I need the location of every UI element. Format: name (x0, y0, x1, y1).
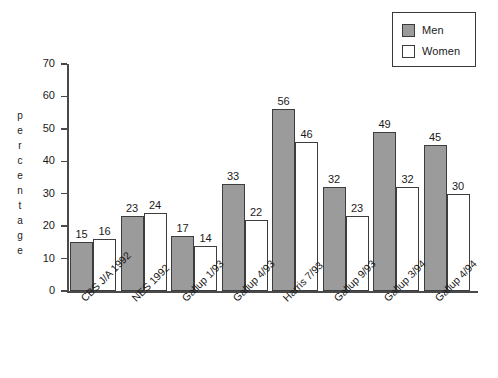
bar-value-label: 32 (328, 174, 340, 185)
bar-value-label: 46 (300, 129, 312, 140)
y-tick-label-20: 20 (31, 220, 55, 231)
y-axis-title-letter-0: p (14, 108, 26, 123)
y-axis-title-letter-2: r (14, 138, 26, 153)
bar-men[interactable]: 45 (424, 145, 447, 291)
bar-value-label: 14 (199, 233, 211, 244)
legend-label-women: Women (422, 46, 460, 57)
bar-value-label: 45 (429, 132, 441, 143)
bar-men[interactable]: 49 (373, 132, 396, 291)
legend-label-men: Men (422, 25, 444, 36)
bar-value-label: 56 (277, 96, 289, 107)
y-tick-label-30: 30 (31, 188, 55, 199)
y-tick-label-60: 60 (31, 90, 55, 101)
bar-chart: Men Women percentage 706050403020100 151… (0, 0, 498, 378)
y-tick-label-70: 70 (31, 58, 55, 69)
bar-value-label: 49 (378, 119, 390, 130)
y-axis-title-letter-7: a (14, 213, 26, 228)
bar-value-label: 16 (98, 226, 110, 237)
bar-value-label: 24 (149, 200, 161, 211)
bar-value-label: 22 (250, 207, 262, 218)
bar-group: 5646 (272, 64, 318, 291)
y-axis-title-letter-8: g (14, 228, 26, 243)
bar-value-label: 30 (452, 181, 464, 192)
x-axis-line (67, 291, 478, 293)
y-axis-title: percentage (14, 108, 26, 258)
y-axis-title-letter-3: c (14, 153, 26, 168)
bar-value-label: 23 (126, 203, 138, 214)
y-axis-title-letter-5: n (14, 183, 26, 198)
y-tick-label-0: 0 (31, 285, 55, 296)
bar-value-label: 23 (351, 203, 363, 214)
legend-item-men: Men (402, 20, 475, 41)
legend-item-women: Women (402, 41, 475, 62)
men-swatch-icon (402, 24, 415, 37)
y-axis-title-letter-1: e (14, 123, 26, 138)
bar-group: 4932 (373, 64, 419, 291)
y-axis-title-letter-6: t (14, 198, 26, 213)
y-tick-label-10: 10 (31, 253, 55, 264)
bar-group: 1714 (171, 64, 217, 291)
bar-group: 3223 (323, 64, 369, 291)
y-tick-label-50: 50 (31, 123, 55, 134)
y-axis-title-letter-4: e (14, 168, 26, 183)
chart-legend: Men Women (392, 12, 476, 67)
y-tick-label-40: 40 (31, 155, 55, 166)
bar-group: 4530 (424, 64, 470, 291)
women-swatch-icon (402, 45, 415, 58)
y-axis-title-letter-9: e (14, 243, 26, 258)
bar-value-label: 15 (75, 229, 87, 240)
bar-group: 3322 (222, 64, 268, 291)
bar-men[interactable]: 33 (222, 184, 245, 291)
bar-group: 1516 (70, 64, 116, 291)
bar-value-label: 33 (227, 171, 239, 182)
bar-men[interactable]: 32 (323, 187, 346, 291)
bar-value-label: 32 (401, 174, 413, 185)
bar-value-label: 17 (176, 223, 188, 234)
